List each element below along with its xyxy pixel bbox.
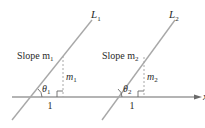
slope-diagram: x L1 Slope m1 m1 1 θ1 L2 Slope m2 m2 1 θ… — [0, 0, 205, 128]
x-axis-arrow-icon — [194, 95, 202, 100]
x-axis-label: x — [202, 91, 205, 102]
rise-l1-label: m1 — [66, 71, 77, 84]
slope-l1-label: Slope m1 — [17, 50, 54, 63]
slope-l2-label: Slope m2 — [102, 50, 139, 63]
line-l2 — [102, 20, 175, 120]
run-l2-label: 1 — [130, 100, 135, 111]
angle-l1-label: θ1 — [42, 83, 51, 96]
line-l2-label: L2 — [168, 8, 179, 23]
run-l1-label: 1 — [48, 100, 53, 111]
angle-l2-label: θ2 — [123, 83, 132, 96]
rise-l2-label: m2 — [147, 71, 158, 84]
right-angle-l1-icon — [57, 91, 63, 97]
right-angle-l2-icon — [138, 91, 144, 97]
